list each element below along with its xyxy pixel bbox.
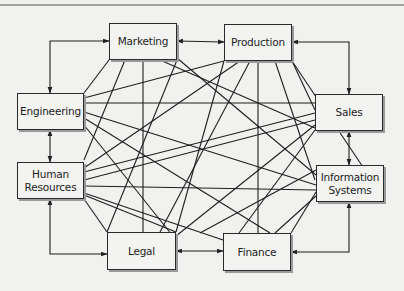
node-production: Production (224, 24, 292, 61)
node-legal: Legal (107, 232, 176, 270)
node-marketing: Marketing (109, 23, 177, 60)
mesh-connection-line (84, 118, 270, 233)
mesh-connection-line (160, 61, 250, 232)
org-communication-diagram: MarketingProductionEngineeringSalesHuman… (0, 0, 404, 291)
arrow-marketing-production (177, 41, 224, 42)
node-label: Finance (238, 246, 277, 259)
mesh-connection-line (275, 61, 315, 180)
node-is: Information Systems (316, 165, 384, 202)
node-engineering: Engineering (17, 93, 84, 130)
mesh-connection-line (84, 120, 315, 180)
node-label: Human Resources (25, 168, 77, 194)
node-label: Engineering (20, 105, 81, 118)
node-label: Sales (336, 106, 363, 119)
mesh-connection-line (84, 60, 125, 160)
arrow-engineering-marketing (50, 41, 109, 93)
mesh-connection-line (84, 199, 107, 232)
node-label: Information Systems (321, 171, 380, 197)
node-label: Legal (128, 245, 155, 258)
mesh-connection-line (176, 125, 315, 236)
connection-lines (0, 0, 404, 291)
mesh-connection-line (84, 112, 316, 185)
mesh-connection-line (291, 192, 316, 233)
mesh-connection-line (160, 60, 315, 128)
mesh-connection-line (84, 195, 176, 232)
mesh-connection-line (84, 125, 176, 240)
arrow-is-finance (291, 202, 349, 252)
node-label: Production (231, 36, 285, 49)
arrow-production-sales (292, 42, 349, 94)
node-finance: Finance (223, 233, 291, 271)
node-label: Marketing (118, 35, 169, 48)
mesh-connection-line (84, 60, 109, 93)
mesh-connection-line (275, 196, 316, 233)
node-sales: Sales (315, 94, 383, 131)
mesh-connection-line (107, 60, 177, 232)
mesh-connection-line (84, 113, 315, 172)
node-hr: Human Resources (17, 162, 84, 199)
arrow-hr-legal (50, 199, 107, 254)
